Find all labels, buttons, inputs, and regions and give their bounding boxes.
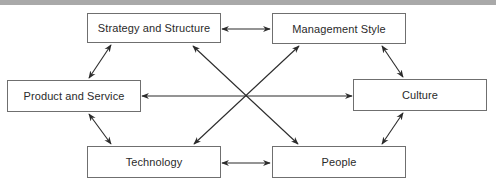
node-label: Product and Service [24,90,125,102]
arrow-management-technology [194,46,299,144]
arrow-culture-people [382,113,403,144]
node-label: Technology [126,156,183,168]
node-culture: Culture [353,79,487,111]
node-label: Management Style [292,23,385,35]
node-people: People [272,146,406,178]
node-label: Strategy and Structure [98,22,210,34]
arrow-strategy-people [193,46,298,144]
node-strategy-and-structure: Strategy and Structure [87,13,221,43]
node-label: Culture [402,89,438,101]
arrow-strategy-product [89,45,111,78]
node-label: People [322,156,357,168]
node-management-style: Management Style [272,13,406,44]
arrow-product-technology [89,114,111,144]
node-product-and-service: Product and Service [7,80,141,112]
node-technology: Technology [87,146,221,178]
arrow-management-culture [382,46,403,77]
